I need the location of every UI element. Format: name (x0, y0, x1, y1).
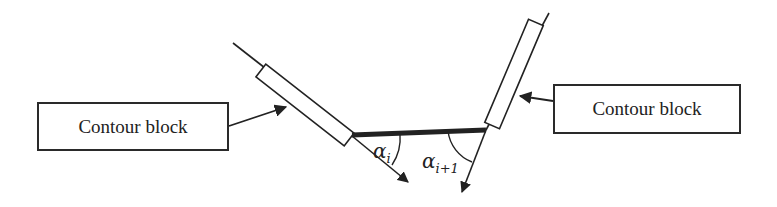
left-contour-block-label: Contour block (37, 102, 229, 151)
right-direction-arrow (462, 130, 486, 192)
right-contour-block (485, 19, 543, 128)
angle-arc-right (448, 131, 472, 162)
connecting-segment (352, 130, 486, 135)
left-label-pointer (229, 107, 286, 126)
right-label-pointer (520, 96, 553, 101)
right-contour-block-label: Contour block (553, 84, 741, 134)
right-label-text: Contour block (592, 98, 701, 120)
angle-arc-left (392, 134, 400, 165)
left-label-text: Contour block (78, 116, 187, 138)
left-contour-block (256, 64, 354, 146)
angle-label-right: αi+1 (422, 149, 459, 176)
angle-label-left: αi (373, 139, 391, 166)
